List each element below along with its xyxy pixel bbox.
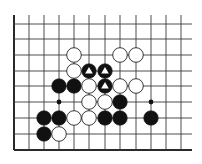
black-stone [52, 79, 67, 94]
black-stone [37, 127, 52, 142]
black-stone [82, 64, 97, 79]
black-stone [144, 111, 159, 126]
stones-layer [37, 48, 159, 142]
black-stone [98, 64, 113, 79]
white-stone [67, 111, 82, 126]
white-stone [129, 79, 144, 94]
white-stone [52, 127, 67, 142]
hoshi-point [149, 100, 154, 105]
white-stone [98, 95, 113, 110]
black-stone [98, 111, 113, 126]
black-stone [67, 79, 82, 94]
white-stone [113, 79, 128, 94]
black-stone [52, 111, 67, 126]
hoshi-point [57, 100, 62, 105]
black-stone [113, 111, 128, 126]
white-stone [82, 95, 97, 110]
go-board-diagram [0, 0, 202, 164]
white-stone [129, 48, 144, 63]
white-stone [82, 79, 97, 94]
black-stone [37, 111, 52, 126]
black-stone [113, 95, 128, 110]
black-stone [98, 79, 113, 94]
white-stone [67, 48, 82, 63]
white-stone [67, 64, 82, 79]
white-stone [113, 48, 128, 63]
white-stone [82, 111, 97, 126]
